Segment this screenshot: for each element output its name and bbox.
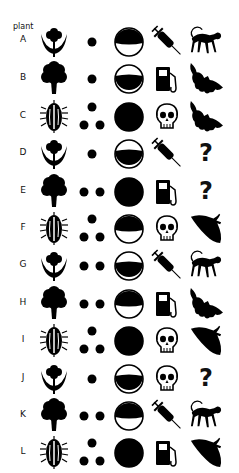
circle-bottom-filled-icon	[112, 248, 146, 282]
tree-icon	[37, 61, 71, 95]
row-label: B	[18, 72, 28, 82]
grid-row-a: A	[0, 22, 239, 60]
dots-2-icon	[75, 398, 109, 432]
grid-row-c: C	[0, 97, 239, 135]
monkey-icon	[186, 24, 226, 58]
dots-2-icon	[75, 248, 109, 282]
moth-icon	[186, 211, 226, 245]
grid-row-b: B	[0, 59, 239, 97]
circle-full-filled-icon	[112, 435, 146, 469]
syringe-icon	[150, 136, 184, 170]
circle-top-filled-icon	[112, 211, 146, 245]
beetle-icon	[37, 211, 71, 245]
skull-icon	[150, 211, 184, 245]
grid-row-l: L	[0, 433, 239, 471]
monkey-icon	[186, 248, 226, 282]
beetle-icon	[37, 435, 71, 469]
circle-bottom-filled-icon	[112, 61, 146, 95]
row-label: K	[18, 409, 28, 419]
dots-2-icon	[75, 286, 109, 320]
circle-full-filled-icon	[112, 99, 146, 133]
syringe-icon	[150, 248, 184, 282]
tree-icon	[37, 174, 71, 208]
flower-moon-icon	[37, 361, 71, 395]
flower-moon-icon	[37, 136, 71, 170]
dots-1-icon	[75, 136, 109, 170]
skull-icon	[150, 361, 184, 395]
tree-icon	[37, 398, 71, 432]
flower-moon-icon	[37, 24, 71, 58]
row-label: F	[18, 222, 28, 232]
grid-row-j: J?	[0, 359, 239, 397]
dots-3-icon	[75, 435, 109, 469]
dots-2-icon	[75, 174, 109, 208]
question-mark-icon: ?	[186, 361, 226, 395]
moth-icon	[186, 435, 226, 469]
grid-row-f: F	[0, 209, 239, 247]
question-mark-icon: ?	[186, 174, 226, 208]
row-label: H	[18, 297, 28, 307]
beetle-icon	[37, 99, 71, 133]
bat-icon	[186, 286, 226, 320]
question-mark-icon: ?	[186, 136, 226, 170]
row-label: G	[18, 259, 28, 269]
dots-3-icon	[75, 323, 109, 357]
row-label: E	[18, 185, 28, 195]
row-label: J	[18, 372, 28, 382]
circle-top-filled-icon	[112, 24, 146, 58]
row-label: I	[18, 334, 28, 344]
dots-1-icon	[75, 361, 109, 395]
fuel-pump-icon	[150, 61, 184, 95]
row-label: A	[18, 34, 28, 44]
fuel-pump-icon	[150, 435, 184, 469]
skull-icon	[150, 323, 184, 357]
grid-row-d: D?	[0, 134, 239, 172]
grid-row-h: H	[0, 284, 239, 322]
row-label: L	[18, 446, 28, 456]
grid-row-e: E?	[0, 172, 239, 210]
circle-top-filled-icon	[112, 398, 146, 432]
grid-row-k: K	[0, 396, 239, 434]
circle-bottom-filled-icon	[112, 361, 146, 395]
moth-icon	[186, 323, 226, 357]
dots-1-icon	[75, 24, 109, 58]
circle-top-filled-icon	[112, 286, 146, 320]
skull-icon	[150, 99, 184, 133]
circle-bottom-filled-icon	[112, 136, 146, 170]
monkey-icon	[186, 398, 226, 432]
row-label: C	[18, 110, 28, 120]
bat-icon	[186, 99, 226, 133]
circle-full-filled-icon	[112, 174, 146, 208]
dots-3-icon	[75, 211, 109, 245]
circle-full-filled-icon	[112, 323, 146, 357]
fuel-pump-icon	[150, 286, 184, 320]
flower-moon-icon	[37, 248, 71, 282]
grid-row-g: G	[0, 246, 239, 284]
tree-icon	[37, 286, 71, 320]
beetle-icon	[37, 323, 71, 357]
bat-icon	[186, 61, 226, 95]
fuel-pump-icon	[150, 174, 184, 208]
dots-1-icon	[75, 61, 109, 95]
syringe-icon	[150, 398, 184, 432]
syringe-icon	[150, 24, 184, 58]
row-label: D	[18, 147, 28, 157]
dots-3-icon	[75, 99, 109, 133]
grid-row-i: I	[0, 321, 239, 359]
